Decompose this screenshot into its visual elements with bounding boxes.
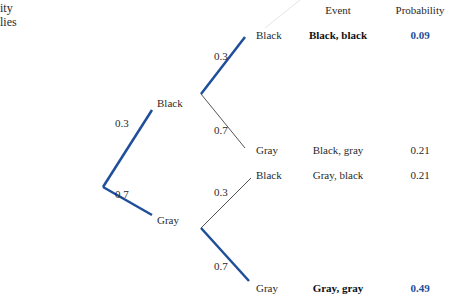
outcome-prob-3: 0.21 bbox=[410, 169, 429, 181]
branch-black-black bbox=[201, 37, 245, 94]
column-header-probability: Probability bbox=[396, 4, 445, 16]
outcome-event-2: Black, gray bbox=[313, 144, 364, 156]
leaf-label-black-black: Black bbox=[256, 29, 282, 41]
prob-black-black: 0.3 bbox=[214, 50, 228, 62]
outcome-prob-4: 0.49 bbox=[410, 282, 429, 294]
column-header-event: Event bbox=[325, 4, 351, 16]
tree-branches bbox=[0, 0, 451, 296]
branch-gray-gray bbox=[201, 228, 249, 281]
prob-gray-gray: 0.7 bbox=[214, 260, 228, 272]
faint-guide-line bbox=[265, 0, 300, 28]
caption-fragment-line2: lies bbox=[0, 16, 17, 28]
prob-root-gray: 0.7 bbox=[115, 188, 129, 200]
outcome-prob-2: 0.21 bbox=[410, 144, 429, 156]
leaf-label-gray-gray: Gray bbox=[256, 282, 278, 294]
node-label-gray: Gray bbox=[157, 214, 179, 226]
outcome-prob-1: 0.09 bbox=[410, 29, 429, 41]
caption-fragment-line1: ity bbox=[0, 2, 13, 14]
prob-black-gray: 0.7 bbox=[214, 124, 228, 136]
leaf-label-gray-black: Black bbox=[256, 169, 282, 181]
branch-black-gray bbox=[201, 94, 245, 148]
outcome-event-4: Gray, gray bbox=[313, 282, 364, 294]
outcome-event-1: Black, black bbox=[309, 29, 367, 41]
prob-gray-black: 0.3 bbox=[214, 186, 228, 198]
node-label-black: Black bbox=[157, 97, 183, 109]
prob-root-black: 0.3 bbox=[115, 117, 129, 129]
outcome-event-3: Gray, black bbox=[313, 169, 364, 181]
leaf-label-black-gray: Gray bbox=[256, 144, 278, 156]
